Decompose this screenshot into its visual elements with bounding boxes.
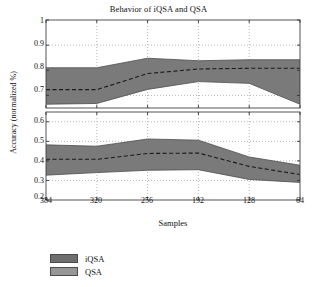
- plot-area: [0, 0, 317, 287]
- x-tick-4: 128: [234, 196, 264, 205]
- legend-item-qsa: QSA: [50, 265, 104, 278]
- legend-swatch-qsa: [50, 267, 78, 276]
- legend-item-iqsa: iQSA: [50, 252, 104, 265]
- legend-label-qsa: QSA: [85, 267, 102, 277]
- x-axis-label: Samples: [46, 218, 300, 228]
- x-tick-5: 64: [285, 196, 315, 205]
- legend: iQSA QSA: [50, 252, 104, 278]
- x-tick-3: 192: [183, 196, 213, 205]
- x-tick-2: 256: [132, 196, 162, 205]
- x-tick-0: 384: [31, 196, 61, 205]
- legend-label-iqsa: iQSA: [85, 254, 104, 264]
- figure: Behavior of iQSA and QSA Accuracy (norma…: [0, 0, 317, 287]
- x-tick-1: 320: [81, 196, 111, 205]
- legend-swatch-iqsa: [50, 254, 78, 263]
